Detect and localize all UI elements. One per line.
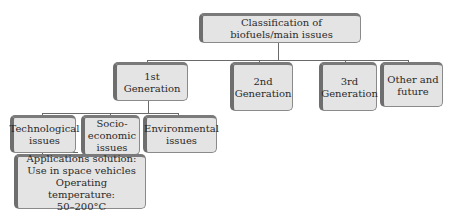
node-environmental-issues: Environmental issues — [143, 115, 217, 153]
node-technological-detail: Applications solution: Use in space vehi… — [14, 154, 146, 209]
node-label-line2: issues — [166, 135, 197, 147]
node-label-line2: issues — [29, 135, 60, 147]
node-label-line1: Environmental — [144, 123, 219, 135]
node-label-line1: Other and — [387, 74, 438, 86]
node-other-and-future: Other and future — [380, 62, 443, 107]
detail-applications-value: Use in space vehicles — [27, 165, 136, 177]
detail-temperature-heading: Operating temperature: — [21, 177, 142, 201]
detail-temperature-value: 50–200°C — [57, 201, 106, 213]
node-2nd-generation: 2nd Generation — [230, 62, 293, 111]
connector-generation-bar — [147, 60, 409, 61]
detail-applications-heading: Applications solution: — [27, 153, 137, 165]
node-label-line2: future — [397, 86, 428, 98]
node-label-line1: Technological — [10, 123, 80, 135]
root-node: Classification of biofuels/main issues — [199, 13, 361, 43]
connector-1st-down — [148, 100, 149, 113]
node-label-line1: 3rd — [341, 76, 359, 88]
node-1st-generation: 1st Generation — [113, 62, 188, 101]
node-3rd-generation: 3rd Generation — [319, 62, 377, 111]
node-label-line1: Socio- — [96, 118, 127, 130]
node-socio-economic-issues: Socio- economic issues — [81, 115, 140, 155]
connector-root-down — [278, 42, 279, 60]
node-label-line2: Generation — [321, 88, 378, 100]
node-label-line2: Generation — [235, 88, 292, 100]
root-label: Classification of biofuels/main issues — [206, 17, 357, 41]
node-label-line1: 2nd — [253, 76, 272, 88]
node-technological-issues: Technological issues — [10, 115, 76, 153]
node-label-line2: Generation — [124, 83, 181, 95]
node-label-line1: 1st — [144, 71, 160, 83]
node-label-line2: economic — [88, 130, 136, 142]
